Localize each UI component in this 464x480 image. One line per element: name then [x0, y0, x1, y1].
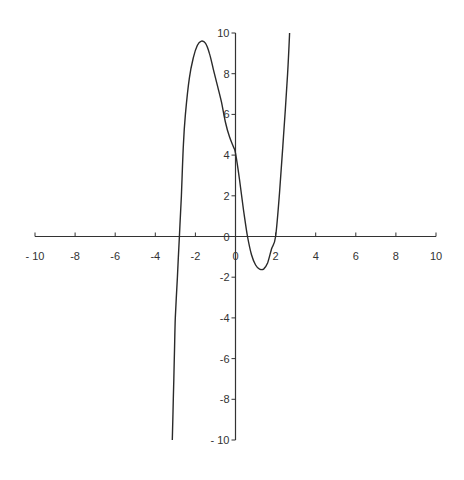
x-tick-label: -8: [70, 250, 80, 262]
x-tick-label: 2: [273, 250, 279, 262]
x-tick-label: - 10: [26, 250, 45, 262]
y-tick-label: 2: [223, 190, 229, 202]
y-tick-label: 0: [223, 231, 229, 243]
function-plot: - 10-8-6-4-20246810 - 10-8-6-4-20246810: [0, 0, 464, 480]
y-tick-label: - 10: [211, 434, 230, 446]
x-tick-label: -6: [110, 250, 120, 262]
y-tick-label: 4: [223, 149, 229, 161]
y-tick-label: -4: [220, 312, 230, 324]
x-tick-label: -4: [150, 250, 160, 262]
y-tick-label: -2: [220, 271, 230, 283]
x-tick-label: 4: [313, 250, 319, 262]
y-tick-label: 10: [217, 27, 229, 39]
x-tick-label: 6: [353, 250, 359, 262]
axes: - 10-8-6-4-20246810 - 10-8-6-4-20246810: [26, 27, 443, 446]
y-tick-label: 8: [223, 68, 229, 80]
x-tick-label: 0: [232, 250, 238, 262]
x-tick-label: 8: [393, 250, 399, 262]
x-tick-label: -2: [191, 250, 201, 262]
y-tick-label: -8: [220, 393, 230, 405]
y-tick-label: -6: [220, 353, 230, 365]
x-tick-label: 10: [430, 250, 442, 262]
